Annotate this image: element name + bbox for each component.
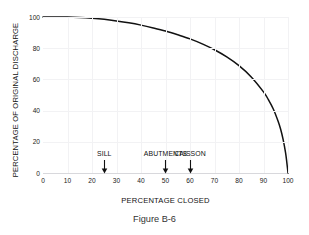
x-tick-label: 50 xyxy=(156,177,176,184)
gridline-vertical xyxy=(215,17,216,173)
x-tick-label: 60 xyxy=(180,177,200,184)
figure-caption: Figure B-6 xyxy=(0,214,309,224)
gridline-horizontal xyxy=(43,79,288,80)
x-tick-label: 100 xyxy=(278,177,298,184)
x-tick-label: 0 xyxy=(33,177,53,184)
x-tick-label: 20 xyxy=(82,177,102,184)
gridline-vertical xyxy=(117,17,118,173)
y-tick-label: 0 xyxy=(22,170,40,177)
x-axis-tick-labels: 0102030405060708090100 xyxy=(43,177,288,187)
annotation-label: SILL xyxy=(97,150,112,158)
x-tick-label: 10 xyxy=(58,177,78,184)
x-tick-label: 90 xyxy=(254,177,274,184)
y-tick-label: 100 xyxy=(22,14,40,21)
y-axis-tick-labels: 020406080100 xyxy=(20,0,40,235)
x-axis-title: PERCENTAGE CLOSED xyxy=(43,196,288,205)
x-tick-label: 70 xyxy=(205,177,225,184)
x-tick-label: 40 xyxy=(131,177,151,184)
gridline-vertical xyxy=(264,17,265,173)
gridline-vertical xyxy=(141,17,142,173)
x-tick-label: 30 xyxy=(107,177,127,184)
gridline-vertical xyxy=(92,17,93,173)
arrow-down-icon xyxy=(101,160,108,174)
y-tick-label: 20 xyxy=(22,138,40,145)
gridline-vertical xyxy=(239,17,240,173)
annotation-label: CAISSON xyxy=(174,150,206,158)
arrow-down-icon xyxy=(187,160,194,174)
arrow-down-icon xyxy=(162,160,169,174)
y-tick-label: 60 xyxy=(22,76,40,83)
x-tick-label: 80 xyxy=(229,177,249,184)
y-tick-label: 80 xyxy=(22,45,40,52)
gridline-horizontal xyxy=(43,17,288,18)
gridline-vertical xyxy=(288,17,289,173)
gridline-horizontal xyxy=(43,48,288,49)
y-tick-label: 40 xyxy=(22,107,40,114)
gridline-vertical xyxy=(68,17,69,173)
gridline-horizontal xyxy=(43,111,288,112)
figure-container: PERCENTAGE OF ORIGINAL DISCHARGE 0204060… xyxy=(0,0,309,235)
gridline-horizontal xyxy=(43,142,288,143)
